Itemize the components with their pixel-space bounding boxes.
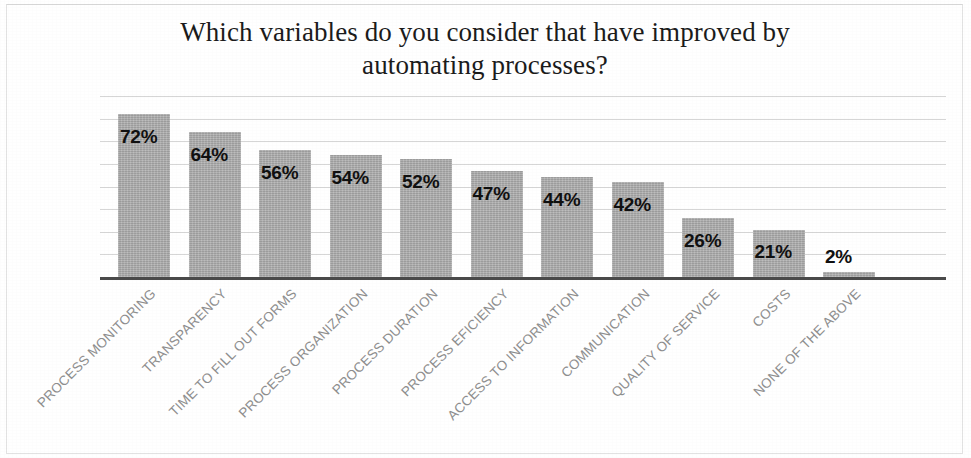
bar-column[interactable]: 42% (612, 96, 664, 277)
bar-value-label: 47% (473, 183, 535, 205)
bar-value-label: 56% (261, 162, 323, 184)
bar-column[interactable]: 72% (118, 96, 170, 277)
bar-value-label: 26% (684, 230, 746, 252)
bar-value-label: 72% (120, 126, 182, 148)
bar-value-label: 2% (825, 246, 887, 268)
bar-column[interactable]: 26% (682, 96, 734, 277)
bar-column[interactable]: 21% (753, 96, 805, 277)
bar-column[interactable]: 47% (471, 96, 523, 277)
category-axis-labels: PROCESS MONITORINGTRANSPARENCYTIME TO FI… (0, 278, 971, 458)
bar-column[interactable]: 54% (330, 96, 382, 277)
category-label: COSTS (749, 286, 793, 330)
category-label: PROCESS ORGANIZATION (235, 286, 370, 421)
bar-column[interactable]: 52% (400, 96, 452, 277)
bar-column[interactable]: 56% (259, 96, 311, 277)
category-label: PROCESS MONITORING (34, 286, 158, 410)
bar-value-label: 42% (614, 194, 676, 216)
bar-column[interactable]: 44% (541, 96, 593, 277)
chart-page: Which variables do you consider that hav… (0, 0, 971, 458)
plot-area: 72%64%56%54%52%47%44%42%26%21%2% (100, 96, 946, 277)
bar-column[interactable]: 64% (189, 96, 241, 277)
bar-value-label: 54% (332, 167, 394, 189)
bar-column[interactable]: 2% (823, 96, 875, 277)
bar-value-label: 44% (543, 189, 605, 211)
bar-series: 72%64%56%54%52%47%44%42%26%21%2% (100, 96, 946, 277)
category-label: ACCESS TO INFORMATION (444, 286, 581, 423)
bar-value-label: 21% (755, 241, 817, 263)
chart-title: Which variables do you consider that hav… (60, 16, 910, 82)
chart-title-line-1: Which variables do you consider that hav… (60, 16, 910, 49)
category-label: TIME TO FILL OUT FORMS (166, 286, 299, 419)
chart-title-line-2: automating processes? (60, 49, 910, 82)
bar-value-label: 52% (402, 171, 464, 193)
bar-value-label: 64% (191, 144, 253, 166)
